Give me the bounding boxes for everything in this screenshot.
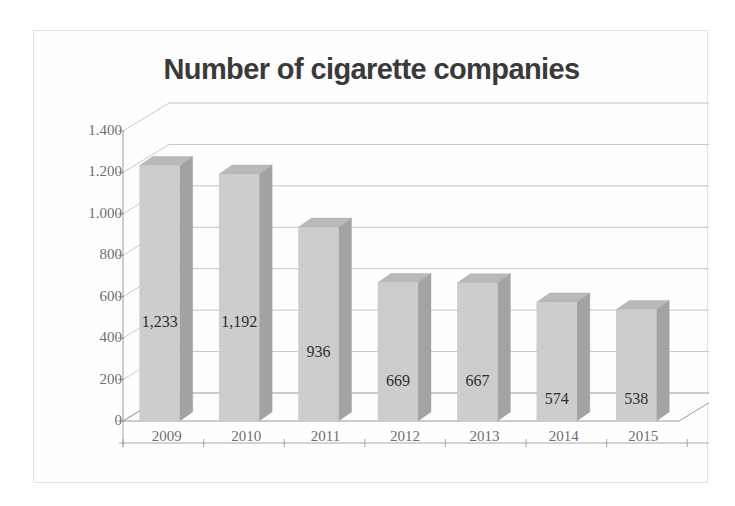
bar-value-label: 936 [284,344,354,360]
data-value-labels: 1,2331,192936669667574538 [34,31,709,484]
bar-value-label: 1,192 [204,314,274,330]
chart-frame: Number of cigarette companies 0200400600… [33,30,708,483]
bar-value-label: 574 [522,391,592,407]
bar-value-label: 667 [442,373,512,389]
bar-value-label: 538 [601,391,671,407]
bar-value-label: 1,233 [125,314,195,330]
bar-value-label: 669 [363,373,433,389]
